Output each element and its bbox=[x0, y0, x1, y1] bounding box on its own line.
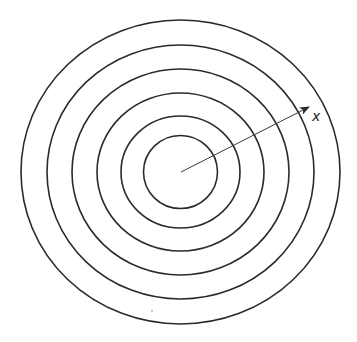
ring-3 bbox=[72, 69, 289, 275]
ring-6 bbox=[144, 136, 218, 209]
x-axis-label: x bbox=[311, 108, 321, 124]
scan-speck bbox=[151, 310, 153, 312]
ring-1 bbox=[21, 20, 340, 324]
rings-group bbox=[21, 20, 340, 324]
concentric-rings-diagram: x bbox=[0, 0, 357, 342]
ring-2 bbox=[47, 45, 314, 299]
ring-5 bbox=[121, 116, 240, 228]
diagram-canvas: x bbox=[0, 0, 357, 342]
x-axis-arrow bbox=[181, 107, 309, 172]
